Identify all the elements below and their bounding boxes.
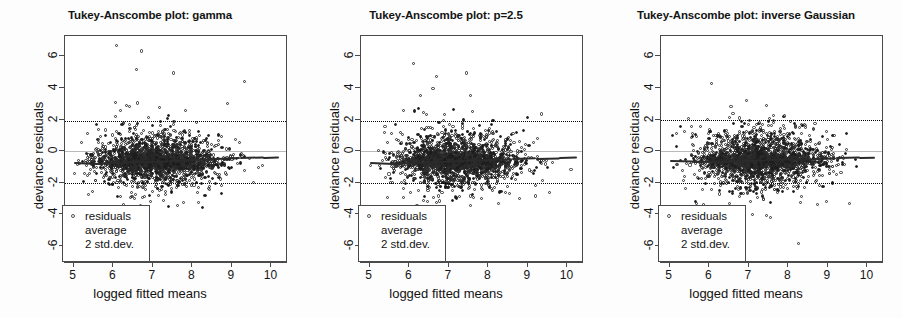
residual-point: [437, 148, 440, 151]
residual-point: [717, 164, 720, 167]
x-axis-tick-label: 9: [228, 268, 235, 282]
residual-point: [506, 185, 509, 188]
residual-point: [769, 216, 772, 219]
residual-point: [814, 161, 817, 164]
panel-title: Tukey-Anscombe plot: inverse Gaussian: [596, 9, 896, 21]
residual-point: [826, 160, 829, 163]
residual-point: [185, 169, 188, 172]
residual-point: [516, 173, 519, 176]
residual-point: [107, 142, 110, 145]
residual-point: [520, 164, 523, 167]
residual-point: [187, 146, 190, 149]
residual-point: [164, 193, 167, 196]
residual-point: [87, 193, 90, 196]
residual-point: [750, 170, 753, 173]
residual-point: [409, 191, 412, 194]
residual-point: [159, 175, 162, 178]
residual-point: [546, 166, 549, 169]
residual-point: [725, 135, 728, 138]
residual-point: [121, 154, 124, 157]
residual-point: [432, 168, 435, 171]
residual-point: [157, 194, 160, 197]
residual-outlier-point: [765, 104, 768, 107]
residual-point: [223, 162, 226, 165]
residual-point: [504, 144, 507, 147]
residual-point: [220, 184, 223, 187]
residual-point: [407, 136, 410, 139]
residual-point: [751, 177, 754, 180]
residual-point: [461, 189, 464, 192]
residual-point: [812, 128, 815, 131]
residual-point: [706, 157, 709, 160]
residual-point: [202, 150, 205, 153]
residual-point: [243, 169, 246, 172]
residual-point: [412, 147, 415, 150]
residual-point: [786, 187, 789, 190]
residual-point: [748, 151, 751, 154]
residual-point: [452, 108, 455, 111]
residual-point: [481, 188, 484, 191]
residual-point: [748, 189, 751, 192]
residual-point: [195, 136, 198, 139]
average-line-segment: [559, 157, 577, 159]
residual-point: [170, 190, 173, 193]
residual-outlier-point: [745, 99, 748, 102]
residual-point: [121, 170, 124, 173]
residual-point: [760, 172, 763, 175]
residual-point: [95, 166, 98, 169]
residual-point: [435, 201, 438, 204]
residual-point: [696, 157, 699, 160]
residual-point: [721, 155, 724, 158]
residual-outlier-point: [497, 202, 500, 205]
residual-point: [394, 123, 397, 126]
residual-point: [423, 195, 426, 198]
residual-point: [194, 172, 197, 175]
residual-point: [236, 162, 239, 165]
residual-point: [383, 131, 386, 134]
residual-point: [220, 135, 223, 138]
panel-gamma: Tukey-Anscombe plot: gamma56789106420-2-…: [0, 0, 300, 318]
legend-item: residuals: [63, 209, 149, 223]
residual-point: [89, 168, 92, 171]
residual-point: [211, 177, 214, 180]
residual-point: [136, 135, 139, 138]
residual-point: [749, 178, 752, 181]
x-axis-line: [360, 262, 583, 263]
residual-point: [473, 188, 476, 191]
residual-point: [764, 188, 767, 191]
std-dev-reference-line-upper: [361, 121, 582, 122]
x-axis-tick-label: 6: [109, 268, 116, 282]
residual-point: [257, 166, 260, 169]
residual-point: [820, 160, 823, 163]
residual-point: [178, 172, 181, 175]
residual-point: [206, 154, 209, 157]
residual-point: [524, 143, 527, 146]
y-axis-tick-label: 0: [46, 141, 60, 159]
residual-point: [109, 154, 112, 157]
residual-point: [487, 167, 490, 170]
residual-point: [118, 155, 121, 158]
residual-point: [447, 186, 450, 189]
residual-point: [727, 152, 730, 155]
residual-point: [122, 158, 125, 161]
residual-point: [771, 142, 774, 145]
residual-point: [420, 127, 423, 130]
residual-point: [809, 147, 812, 150]
residual-point: [739, 177, 742, 180]
residual-point: [148, 194, 151, 197]
residual-point: [723, 139, 726, 142]
residual-point: [156, 171, 159, 174]
residual-point: [436, 132, 439, 135]
x-axis-tick: [787, 262, 788, 267]
residual-point: [533, 169, 536, 172]
residual-outlier-point: [848, 202, 851, 205]
residual-point: [407, 149, 410, 152]
residual-point: [399, 142, 402, 145]
residual-point: [520, 171, 523, 174]
residual-point: [225, 173, 228, 176]
residual-outlier-point: [158, 106, 161, 109]
residual-point: [130, 191, 133, 194]
residual-point: [679, 125, 682, 128]
residual-point: [149, 174, 152, 177]
residual-outlier-point: [431, 87, 434, 90]
